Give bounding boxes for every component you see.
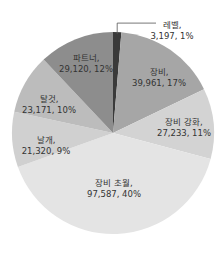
slice-label-partner: 파트너, 29,120, 12% — [59, 53, 113, 75]
slice-label-wings: 날개, 21,320, 9% — [22, 135, 71, 157]
slice-label-equipment: 장비, 39,961, 17% — [132, 67, 186, 89]
slice-label-mount: 탈것, 23,171, 10% — [22, 94, 76, 116]
slice-label-level: 레벨, 3,197, 1% — [150, 20, 193, 42]
slice-label-equipment-transcend: 장비 초월, 97,587, 40% — [87, 178, 141, 200]
slice-label-equipment-enhance: 장비 강화, 27,233, 11% — [157, 117, 211, 139]
